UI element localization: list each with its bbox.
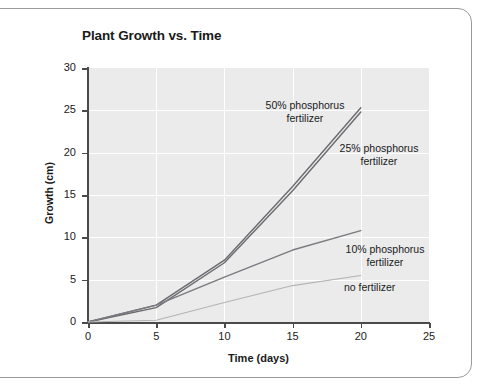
x-axis-tick: [293, 323, 295, 328]
y-axis-tick: [82, 153, 88, 155]
y-axis-tick-label: 5: [36, 273, 76, 285]
x-axis-tick-label: 5: [136, 330, 176, 342]
y-axis-tick: [82, 280, 88, 282]
x-axis-title: Time (days): [88, 352, 429, 364]
series-line: [88, 231, 361, 322]
series-label-10-phosphorus: 10% phosphorus fertilizer: [333, 243, 437, 268]
chart-figure: Plant Growth vs. Time Growth (cm) Time (…: [0, 0, 488, 392]
x-axis-tick: [361, 323, 363, 328]
x-axis-tick-label: 15: [273, 330, 313, 342]
y-axis-tick-label: 25: [36, 103, 76, 115]
y-axis-tick-label: 15: [36, 188, 76, 200]
y-axis-tick-label: 10: [36, 230, 76, 242]
y-axis-tick-label: 20: [36, 146, 76, 158]
x-axis-tick: [88, 323, 90, 328]
x-axis-tick: [224, 323, 226, 328]
x-axis-tick: [156, 323, 158, 328]
x-axis-line: [87, 322, 430, 324]
y-axis-tick-label: 0: [36, 315, 76, 327]
series-label-25-phosphorus: 25% phosphorus fertilizer: [330, 142, 428, 167]
y-axis-tick: [82, 110, 88, 112]
x-axis-tick-label: 20: [341, 330, 381, 342]
series-label-50-phosphorus: 50% phosphorus fertilizer: [253, 99, 357, 124]
series-label-no-fertilizer: no fertilizer: [344, 281, 444, 294]
chart-title: Plant Growth vs. Time: [82, 28, 221, 43]
y-axis-tick: [82, 68, 88, 70]
y-axis-tick: [82, 237, 88, 239]
y-axis-tick: [82, 195, 88, 197]
y-axis-tick: [82, 322, 88, 324]
x-axis-tick-label: 25: [409, 330, 449, 342]
series-line: [88, 108, 361, 322]
x-axis-tick-label: 10: [204, 330, 244, 342]
y-axis-tick-label: 30: [36, 61, 76, 73]
x-axis-tick: [429, 323, 431, 328]
series-line: [88, 112, 361, 322]
x-axis-tick-label: 0: [68, 330, 108, 342]
series-line: [88, 275, 361, 322]
